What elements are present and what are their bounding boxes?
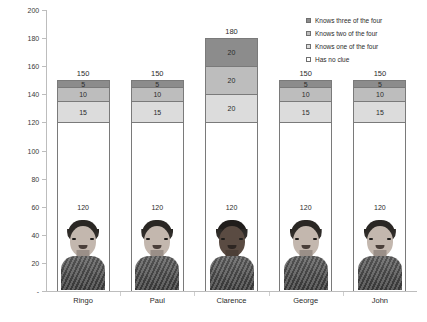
legend-label: Knows two of the four (315, 30, 378, 37)
legend-label: Knows three of the four (315, 17, 382, 24)
legend-item-2[interactable]: Knows one of the four (306, 40, 424, 53)
y-tick-40 (42, 235, 46, 236)
category-separator (343, 292, 344, 296)
y-tick-label-160: 160 (28, 63, 39, 70)
bar-segment-value: 20 (228, 77, 236, 84)
bar-segment-s3[interactable]: 20 (205, 38, 258, 66)
bar-segment-value: 20 (228, 105, 236, 112)
y-tick-180 (42, 38, 46, 39)
y-tick-label-80: 80 (31, 175, 39, 182)
x-axis-line (46, 291, 417, 292)
bar-group-clarence[interactable]: 202020120180 (205, 38, 258, 291)
bar-group-george[interactable]: 51015120150 (279, 80, 332, 291)
bar-segment-value: 5 (304, 81, 308, 88)
stacked-bar[interactable]: 51015120 (279, 80, 332, 291)
bar-segment-value: 10 (79, 91, 87, 98)
bar-segment-s1[interactable]: 20 (205, 94, 258, 122)
bar-segment-s0[interactable]: 120 (279, 122, 332, 291)
bar-segment-value: 5 (81, 81, 85, 88)
y-tick-100 (42, 151, 46, 152)
y-tick-160 (42, 66, 46, 67)
bar-segment-value: 120 (300, 204, 312, 211)
y-tick-120 (42, 122, 46, 123)
bar-segment-value: 15 (376, 109, 384, 116)
bar-segment-s1[interactable]: 15 (353, 101, 406, 122)
y-tick-label-180: 180 (28, 35, 39, 42)
bar-segment-value: 15 (153, 109, 161, 116)
bar-group-ringo[interactable]: 51015120150 (57, 80, 110, 291)
y-tick-label-40: 40 (31, 231, 39, 238)
legend-item-1[interactable]: Knows two of the four (306, 27, 424, 40)
bar-segment-s2[interactable]: 10 (353, 87, 406, 101)
bar-segment-value: 5 (155, 81, 159, 88)
bar-segment-s1[interactable]: 15 (131, 101, 184, 122)
bar-segment-s2[interactable]: 20 (205, 66, 258, 94)
bar-segment-value: 5 (378, 81, 382, 88)
bar-segment-value: 15 (302, 109, 310, 116)
bar-segment-s3[interactable]: 5 (353, 80, 406, 87)
category-separator (269, 292, 270, 296)
legend-label: Has no clue (315, 56, 349, 63)
bar-total-label: 150 (353, 69, 406, 78)
bar-segment-s3[interactable]: 5 (279, 80, 332, 87)
legend-item-0[interactable]: Knows three of the four (306, 14, 424, 27)
bar-segment-s1[interactable]: 15 (279, 101, 332, 122)
bar-group-paul[interactable]: 51015120150 (131, 80, 184, 291)
category-label-john: John (340, 296, 420, 305)
y-tick-label-200: 200 (28, 7, 39, 14)
legend-swatch-icon (306, 44, 311, 49)
bar-segment-value: 10 (302, 91, 310, 98)
bar-segment-value: 20 (228, 49, 236, 56)
category-separator (194, 292, 195, 296)
bar-segment-s2[interactable]: 10 (131, 87, 184, 101)
y-tick-label-100: 100 (28, 147, 39, 154)
y-tick-200 (42, 10, 46, 11)
y-tick-label-0: - (37, 288, 39, 295)
bar-segment-value: 120 (151, 204, 163, 211)
bar-segment-s3[interactable]: 5 (57, 80, 110, 87)
legend-swatch-icon (306, 57, 311, 62)
bar-segment-value: 120 (374, 204, 386, 211)
bar-total-label: 150 (57, 69, 110, 78)
legend-swatch-icon (306, 31, 311, 36)
bar-segment-s2[interactable]: 10 (57, 87, 110, 101)
bar-group-john[interactable]: 51015120150 (353, 80, 406, 291)
stacked-bar[interactable]: 202020120 (205, 38, 258, 291)
bar-segment-s1[interactable]: 15 (57, 101, 110, 122)
y-tick-label-120: 120 (28, 119, 39, 126)
legend-label: Knows one of the four (315, 43, 378, 50)
bar-total-label: 180 (205, 27, 258, 36)
y-tick-0 (42, 291, 46, 292)
y-tick-label-140: 140 (28, 91, 39, 98)
stacked-bar[interactable]: 51015120 (353, 80, 406, 291)
y-tick-20 (42, 263, 46, 264)
stacked-bar[interactable]: 51015120 (131, 80, 184, 291)
category-label-george: George (266, 296, 346, 305)
chart-legend: Knows three of the fourKnows two of the … (306, 14, 424, 66)
bar-segment-value: 10 (376, 91, 384, 98)
stacked-bar[interactable]: 51015120 (57, 80, 110, 291)
bar-segment-s0[interactable]: 120 (205, 122, 258, 291)
y-axis-line (46, 10, 47, 292)
bar-segment-s2[interactable]: 10 (279, 87, 332, 101)
y-tick-80 (42, 179, 46, 180)
bar-segment-value: 10 (153, 91, 161, 98)
bar-total-label: 150 (279, 69, 332, 78)
bar-segment-s3[interactable]: 5 (131, 80, 184, 87)
stacked-bar-chart: -20406080100120140160180200 510151201505… (0, 0, 427, 322)
category-label-clarence: Clarence (192, 296, 272, 305)
category-label-paul: Paul (117, 296, 197, 305)
bar-segment-s0[interactable]: 120 (57, 122, 110, 291)
y-tick-label-20: 20 (31, 259, 39, 266)
legend-item-3[interactable]: Has no clue (306, 53, 424, 66)
bar-segment-value: 120 (226, 204, 238, 211)
y-tick-140 (42, 94, 46, 95)
category-separator (120, 292, 121, 296)
legend-swatch-icon (306, 18, 311, 23)
bar-segment-value: 15 (79, 109, 87, 116)
bar-segment-s0[interactable]: 120 (131, 122, 184, 291)
bar-segment-s0[interactable]: 120 (353, 122, 406, 291)
category-label-ringo: Ringo (43, 296, 123, 305)
bar-total-label: 150 (131, 69, 184, 78)
y-tick-label-60: 60 (31, 203, 39, 210)
